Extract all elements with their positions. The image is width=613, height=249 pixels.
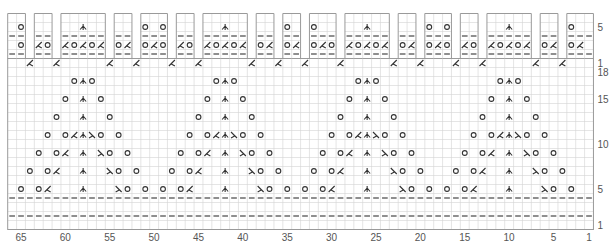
k2tog-icon — [320, 42, 326, 48]
k2tog-icon — [480, 168, 486, 174]
double-decrease-icon — [506, 24, 512, 30]
yarn-over-icon — [542, 169, 547, 174]
k2tog-icon — [54, 168, 60, 174]
double-decrease-icon — [506, 150, 512, 156]
k2tog-icon — [267, 42, 273, 48]
yarn-over-icon — [480, 151, 485, 156]
yarn-over-icon — [524, 133, 529, 138]
yarn-over-icon — [382, 97, 387, 102]
double-decrease-icon — [364, 132, 370, 138]
double-decrease-icon — [364, 150, 370, 156]
yarn-over-icon — [320, 151, 325, 156]
k2tog-icon — [497, 132, 503, 138]
k2tog-icon — [551, 42, 557, 48]
yarn-over-icon — [249, 151, 254, 156]
k2tog-icon — [178, 42, 184, 48]
yarn-over-icon — [196, 115, 201, 120]
yarn-over-icon — [178, 187, 183, 192]
yarn-over-icon — [196, 151, 201, 156]
yarn-over-icon — [143, 25, 148, 30]
yarn-over-icon — [329, 169, 334, 174]
double-decrease-icon — [80, 114, 86, 120]
double-decrease-icon — [222, 132, 228, 138]
yarn-over-icon — [161, 43, 166, 48]
yarn-over-icon — [329, 43, 334, 48]
k2tog-icon — [80, 42, 86, 48]
k2tog-icon — [187, 186, 193, 192]
k2tog-icon — [453, 60, 459, 66]
double-decrease-icon — [80, 132, 86, 138]
yarn-over-icon — [45, 133, 50, 138]
k2tog-icon — [471, 186, 477, 192]
ssk-icon — [542, 186, 548, 192]
yarn-over-icon — [116, 133, 121, 138]
yarn-over-icon — [569, 187, 574, 192]
ssk-icon — [231, 132, 237, 138]
yarn-over-icon — [471, 43, 476, 48]
yarn-over-icon — [178, 151, 183, 156]
k2tog-icon — [346, 42, 352, 48]
yarn-over-icon — [445, 187, 450, 192]
double-decrease-icon — [506, 186, 512, 192]
k2tog-icon — [125, 42, 131, 48]
yarn-over-icon — [72, 43, 77, 48]
yarn-over-icon — [267, 187, 272, 192]
main-row-label: 1 — [597, 220, 603, 231]
k2tog-icon — [329, 186, 335, 192]
k2tog-icon — [249, 60, 255, 66]
double-decrease-icon — [80, 96, 86, 102]
yarn-over-icon — [569, 43, 574, 48]
yarn-over-icon — [516, 79, 521, 84]
double-decrease-icon — [222, 168, 228, 174]
yarn-over-icon — [249, 115, 254, 120]
k2tog-icon — [559, 60, 565, 66]
column-label: 10 — [504, 232, 516, 243]
yarn-over-icon — [471, 169, 476, 174]
yarn-over-icon — [98, 133, 103, 138]
k2tog-icon — [275, 60, 281, 66]
yarn-over-icon — [45, 169, 50, 174]
yarn-over-icon — [391, 115, 396, 120]
yarn-over-icon — [232, 79, 237, 84]
column-label: 25 — [370, 232, 382, 243]
yarn-over-icon — [240, 97, 245, 102]
yarn-over-icon — [311, 169, 316, 174]
yarn-over-icon — [19, 25, 24, 30]
double-decrease-icon — [80, 186, 86, 192]
yarn-over-icon — [427, 25, 432, 30]
k2tog-icon — [302, 60, 308, 66]
yarn-over-icon — [374, 79, 379, 84]
yarn-over-icon — [462, 187, 467, 192]
ssk-icon — [89, 132, 95, 138]
yarn-over-icon — [187, 169, 192, 174]
k2tog-icon — [107, 60, 113, 66]
column-label: 5 — [551, 232, 557, 243]
double-decrease-icon — [364, 168, 370, 174]
yarn-over-icon — [329, 133, 334, 138]
k2tog-icon — [524, 42, 530, 48]
double-decrease-icon — [222, 186, 228, 192]
yarn-over-icon — [445, 25, 450, 30]
column-label: 1 — [586, 232, 592, 243]
yarn-over-icon — [382, 133, 387, 138]
ssk-icon — [515, 132, 521, 138]
ssk-icon — [373, 132, 379, 138]
yarn-over-icon — [258, 43, 263, 48]
k2tog-icon — [196, 168, 202, 174]
double-decrease-icon — [364, 114, 370, 120]
yarn-over-icon — [107, 115, 112, 120]
yarn-over-icon — [116, 43, 121, 48]
ssk-icon — [107, 168, 113, 174]
yarn-over-icon — [347, 97, 352, 102]
yarn-over-icon — [498, 43, 503, 48]
yarn-over-icon — [356, 79, 361, 84]
ssk-icon — [524, 150, 530, 156]
k2tog-icon — [222, 42, 228, 48]
yarn-over-icon — [427, 187, 432, 192]
ssk-icon — [391, 168, 397, 174]
yarn-over-icon — [36, 151, 41, 156]
yarn-over-icon — [560, 169, 565, 174]
yarn-over-icon — [489, 133, 494, 138]
yarn-over-icon — [569, 25, 574, 30]
yarn-over-icon — [125, 187, 130, 192]
